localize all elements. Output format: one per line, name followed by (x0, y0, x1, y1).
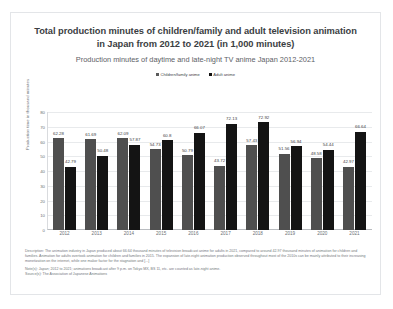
bar-adult[interactable]: 42.79 (65, 167, 76, 230)
x-axis-tick-label: 2014 (117, 231, 140, 236)
bar-value-label: 72.92 (258, 115, 269, 120)
x-axis-ticks: 2012201320142015201620172018201920202021 (47, 231, 372, 236)
plot-area: Production time in thousand minutes 0102… (11, 112, 380, 247)
y-axis-tick-label: 20 (31, 198, 45, 203)
bar-children[interactable]: 51.56 (279, 154, 290, 230)
bar-value-label: 61.69 (85, 132, 96, 137)
bar-children[interactable]: 42.97 (343, 167, 354, 230)
bar-value-label: 50.48 (97, 148, 108, 153)
bar-value-label: 62.28 (53, 131, 64, 136)
bar-value-label: 57.87 (129, 137, 140, 142)
chart-header: Total production minutes of children/fam… (11, 13, 380, 65)
bar-value-label: 57.43 (246, 138, 257, 143)
x-axis-tick-label: 2021 (343, 231, 366, 236)
bar-value-label: 56.94 (291, 139, 302, 144)
x-axis-tick-label: 2016 (182, 231, 205, 236)
bar-adult[interactable]: 56.94 (291, 146, 302, 230)
chart-footnotes: Description: The animation industry in J… (25, 249, 370, 277)
bar-group: 54.7360.8 (150, 112, 173, 230)
y-axis-title: Production time in thousand minutes (25, 80, 30, 150)
bar-group: 57.4372.92 (246, 112, 269, 230)
bar-adult[interactable]: 72.92 (258, 122, 269, 230)
bar-value-label: 60.8 (163, 133, 172, 138)
footnote-description: Description: The animation industry in J… (25, 249, 370, 264)
y-axis-tick-label: 80 (31, 110, 45, 115)
x-axis-tick-label: 2012 (53, 231, 76, 236)
bar-adult[interactable]: 72.13 (226, 124, 237, 230)
bar-adult[interactable]: 66.64 (355, 132, 366, 230)
bar-value-label: 66.07 (194, 125, 205, 130)
chart-subtitle: Production minutes of daytime and late-n… (11, 54, 380, 65)
bar-group: 62.0957.87 (117, 112, 140, 230)
bar-value-label: 66.64 (355, 124, 366, 129)
bar-value-label: 51.56 (279, 146, 290, 151)
bar-group: 61.6950.48 (85, 112, 108, 230)
bar-value-label: 62.09 (117, 131, 128, 136)
y-axis-tick-label: 40 (31, 169, 45, 174)
y-axis-tick-label: 50 (31, 154, 45, 159)
x-axis-tick-label: 2018 (246, 231, 269, 236)
bar-adult[interactable]: 57.87 (129, 145, 140, 230)
bar-value-label: 50.79 (182, 148, 193, 153)
bar-children[interactable]: 48.58 (311, 158, 322, 230)
y-axis-tick-label: 10 (31, 213, 45, 218)
footnote-source: Source(s): The Association of Japanese A… (25, 272, 370, 277)
bar-group: 42.9766.64 (343, 112, 366, 230)
x-axis-tick-label: 2013 (85, 231, 108, 236)
x-axis-tick-label: 2019 (279, 231, 302, 236)
y-axis-tick-label: 60 (31, 139, 45, 144)
bar-value-label: 48.58 (311, 151, 322, 156)
bar-series-container: 62.2842.7961.6950.4862.0957.8754.7360.85… (47, 112, 372, 230)
y-axis-tick-label: 30 (31, 183, 45, 188)
bar-children[interactable]: 43.72 (214, 166, 225, 230)
bar-group: 51.5656.94 (279, 112, 302, 230)
legend-label-adult: Adult anime (213, 72, 235, 77)
bar-value-label: 42.79 (65, 159, 76, 164)
chart-title: Total production minutes of children/fam… (33, 25, 358, 50)
bar-children[interactable]: 62.09 (117, 138, 128, 230)
chart-legend: Children/family anime Adult anime (11, 72, 380, 77)
bar-adult[interactable]: 60.8 (162, 140, 173, 230)
bar-children[interactable]: 61.69 (85, 139, 96, 230)
y-axis-tick-label: 0 (31, 228, 45, 233)
bar-value-label: 54.44 (323, 142, 334, 147)
bar-adult[interactable]: 54.44 (323, 150, 334, 230)
bar-children[interactable]: 62.28 (53, 138, 64, 230)
legend-label-children: Children/family anime (160, 72, 199, 77)
chart-card: Total production minutes of children/fam… (10, 12, 381, 295)
bar-group: 43.7272.13 (214, 112, 237, 230)
legend-item-adult[interactable]: Adult anime (209, 72, 235, 77)
bar-value-label: 43.72 (214, 158, 225, 163)
bar-adult[interactable]: 50.48 (97, 156, 108, 230)
x-axis-tick-label: 2020 (311, 231, 334, 236)
bar-children[interactable]: 54.73 (150, 149, 161, 230)
bar-value-label: 42.97 (343, 159, 354, 164)
bar-adult[interactable]: 66.07 (194, 133, 205, 230)
y-axis-ticks: 01020304050607080 (31, 112, 45, 230)
bar-group: 62.2842.79 (53, 112, 76, 230)
bar-value-label: 72.13 (226, 116, 237, 121)
legend-swatch-icon-children (156, 73, 159, 76)
bar-children[interactable]: 57.43 (246, 145, 257, 230)
legend-item-children[interactable]: Children/family anime (156, 72, 201, 77)
bar-group: 50.7966.07 (182, 112, 205, 230)
bar-value-label: 54.73 (150, 142, 161, 147)
bar-children[interactable]: 50.79 (182, 155, 193, 230)
y-axis-tick-label: 70 (31, 124, 45, 129)
legend-swatch-icon-adult (209, 73, 212, 76)
bar-group: 48.5854.44 (311, 112, 334, 230)
x-axis-tick-label: 2017 (214, 231, 237, 236)
x-axis-tick-label: 2015 (150, 231, 173, 236)
